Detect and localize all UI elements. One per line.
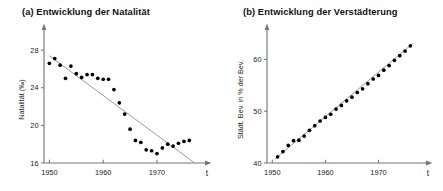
data-point: [123, 112, 127, 116]
panel-b-plot: 405060195019601970tStädt. Bev. in % der …: [221, 0, 443, 191]
data-point: [155, 152, 159, 156]
data-point: [150, 149, 154, 153]
data-point: [377, 74, 381, 78]
data-point: [302, 134, 306, 138]
data-point: [329, 112, 333, 116]
data-point: [128, 127, 132, 131]
data-point: [144, 148, 148, 152]
data-point: [393, 59, 397, 63]
data-point: [187, 139, 191, 143]
data-point: [171, 144, 175, 148]
data-point: [281, 150, 285, 154]
data-point: [339, 104, 343, 108]
data-point: [286, 144, 290, 148]
regression-line: [275, 43, 413, 159]
y-tick-label: 40: [253, 159, 261, 168]
x-tick-label: 1950: [41, 168, 57, 177]
data-point: [371, 77, 375, 81]
data-point: [101, 77, 105, 81]
data-point: [361, 87, 365, 91]
y-tick-label: 20: [30, 121, 38, 130]
data-point: [276, 155, 280, 159]
data-point: [318, 119, 322, 123]
data-point: [58, 63, 62, 67]
data-point: [80, 76, 84, 80]
data-point: [308, 128, 312, 132]
y-axis-title: Städt. Bev. in % der Bev.: [236, 60, 245, 139]
x-axis-symbol: t: [427, 169, 430, 178]
y-axis-title: Natalität (‰): [17, 79, 26, 119]
chart-panel-b: (b) Entwicklung der Verstädterung 405060…: [221, 0, 443, 191]
data-point: [313, 124, 317, 128]
data-point: [74, 72, 78, 76]
x-tick-label: 1960: [95, 168, 111, 177]
data-point: [64, 76, 68, 80]
y-tick-label: 24: [30, 83, 38, 92]
data-point: [69, 64, 73, 68]
x-axis-symbol: t: [206, 169, 209, 178]
data-point: [345, 99, 349, 103]
data-point: [117, 101, 121, 105]
data-point: [387, 64, 391, 68]
data-point: [409, 44, 413, 48]
figure-container: (a) Entwicklung der Natalität 1620242819…: [0, 0, 443, 191]
data-point: [350, 95, 354, 99]
data-point: [107, 77, 111, 81]
data-point: [53, 57, 57, 61]
x-tick-label: 1950: [264, 168, 280, 177]
data-point: [334, 107, 338, 111]
data-point: [355, 91, 359, 95]
y-tick-label: 50: [253, 107, 261, 116]
y-tick-label: 16: [30, 159, 38, 168]
data-point: [403, 49, 407, 53]
data-point: [292, 139, 296, 143]
data-point: [134, 139, 138, 143]
data-point: [91, 73, 95, 77]
x-tick-label: 1960: [317, 168, 333, 177]
data-point: [166, 142, 170, 146]
data-point: [297, 138, 301, 142]
data-point: [366, 82, 370, 86]
data-point: [398, 54, 402, 58]
x-tick-label: 1970: [370, 168, 386, 177]
y-tick-label: 28: [30, 46, 38, 55]
data-point: [160, 146, 164, 150]
data-point: [324, 116, 328, 120]
y-tick-label: 60: [253, 55, 261, 64]
data-point: [48, 61, 52, 65]
data-point: [112, 88, 116, 92]
data-point: [177, 141, 181, 145]
data-point: [382, 68, 386, 72]
chart-panel-a: (a) Entwicklung der Natalität 1620242819…: [0, 0, 222, 191]
panel-a-plot: 16202428195019601970tNatalität (‰): [0, 0, 222, 191]
data-point: [139, 140, 143, 144]
data-point: [96, 76, 100, 80]
data-point: [85, 73, 89, 77]
x-tick-label: 1970: [149, 168, 165, 177]
data-point: [182, 140, 186, 144]
